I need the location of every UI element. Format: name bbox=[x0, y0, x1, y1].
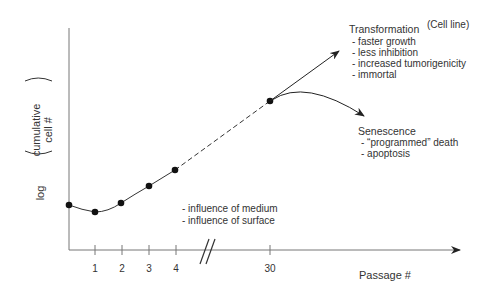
x-axis-label: Passage # bbox=[359, 269, 412, 281]
senescence-item: - apoptosis bbox=[361, 148, 410, 159]
data-point bbox=[92, 209, 99, 216]
y-axis-label-prefix: log bbox=[34, 186, 46, 201]
tick-label: 3 bbox=[146, 263, 152, 274]
y-axis-label-line2: cell # bbox=[42, 116, 54, 143]
senescence-title: Senescence bbox=[358, 125, 416, 137]
influence-medium: - influence of medium bbox=[182, 203, 278, 214]
tick-label: 4 bbox=[173, 263, 179, 274]
senescence-item: - “programmed” death bbox=[361, 137, 458, 148]
transformation-item: - faster growth bbox=[352, 36, 416, 47]
axis-break-icon bbox=[200, 239, 215, 264]
data-points bbox=[66, 98, 274, 216]
cell-growth-diagram: 1 2 3 4 30 Passage # log cumulative cell… bbox=[0, 0, 490, 293]
influence-surface: - influence of surface bbox=[182, 215, 275, 226]
transformation-title: Transformation bbox=[349, 23, 419, 35]
cell-line-tag: (Cell line) bbox=[427, 19, 469, 30]
transformation-item: - immortal bbox=[352, 69, 396, 80]
tick-label: 2 bbox=[119, 263, 125, 274]
data-point bbox=[118, 200, 125, 207]
tick-label: 30 bbox=[264, 263, 276, 274]
growth-curve-dashed bbox=[175, 101, 270, 170]
transformation-arrow bbox=[270, 51, 339, 101]
data-point bbox=[146, 183, 153, 190]
senescence-arrow bbox=[272, 92, 364, 116]
data-point bbox=[66, 202, 73, 209]
transformation-item: - increased tumorigenicity bbox=[352, 58, 466, 69]
left-paren bbox=[25, 78, 52, 81]
transformation-item: - less inhibition bbox=[352, 47, 418, 58]
data-point bbox=[172, 167, 179, 174]
y-axis-label-line1: cumulative bbox=[30, 104, 42, 157]
tick-label: 1 bbox=[92, 263, 98, 274]
